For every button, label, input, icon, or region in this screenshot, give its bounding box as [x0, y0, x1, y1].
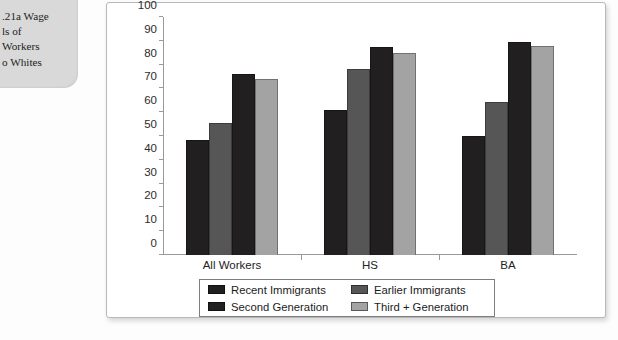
- bar: [485, 102, 508, 256]
- figure-caption-box: .21a Wage ls of Workers o Whites: [0, 0, 78, 88]
- legend-label: Recent Immigrants: [231, 284, 326, 296]
- legend-item[interactable]: Second Generation: [208, 299, 343, 314]
- bar-group: [439, 17, 577, 255]
- chart-legend: Recent ImmigrantsEarlier ImmigrantsSecon…: [199, 279, 495, 317]
- bar: [508, 42, 531, 255]
- y-axis-tick-label: 40: [144, 142, 163, 154]
- y-axis-tick-label: 20: [144, 189, 163, 201]
- legend-item[interactable]: Third + Generation: [351, 299, 486, 314]
- y-axis-tick-label: 100: [138, 0, 163, 11]
- bar: [393, 53, 416, 255]
- x-axis-label: HS: [301, 259, 439, 271]
- legend-label: Earlier Immigrants: [374, 284, 466, 296]
- bar: [186, 140, 209, 255]
- legend-swatch-icon: [208, 302, 225, 311]
- bar-group: [163, 17, 301, 255]
- bar: [370, 47, 393, 255]
- legend-swatch-icon: [351, 302, 368, 311]
- legend-swatch-icon: [208, 285, 225, 294]
- y-axis-tick-label: 10: [144, 213, 163, 225]
- y-axis-tick-label: 50: [144, 118, 163, 130]
- legend-swatch-icon: [351, 285, 368, 294]
- bar: [324, 110, 347, 255]
- chart-panel: 1009080706050403020100 All WorkersHSBA R…: [106, 2, 606, 318]
- y-axis-tick-label: 70: [144, 70, 163, 82]
- bar-group: [301, 17, 439, 255]
- bar: [347, 69, 370, 255]
- figure-caption-text: .21a Wage ls of Workers o Whites: [0, 9, 70, 70]
- x-axis-labels: All WorkersHSBA: [163, 259, 577, 271]
- bar: [255, 79, 278, 255]
- y-axis-tick-label: 0: [151, 237, 163, 249]
- y-axis-tick-label: 90: [144, 23, 163, 35]
- x-axis-label: BA: [439, 259, 577, 271]
- bar-groups: [163, 17, 577, 255]
- legend-item[interactable]: Earlier Immigrants: [351, 282, 486, 297]
- y-axis-tick-label: 60: [144, 94, 163, 106]
- legend-label: Third + Generation: [374, 301, 469, 313]
- y-axis-tick-label: 80: [144, 47, 163, 59]
- bar: [232, 74, 255, 255]
- legend-label: Second Generation: [231, 301, 328, 313]
- x-axis-label: All Workers: [163, 259, 301, 271]
- bar: [209, 123, 232, 255]
- plot-area: 1009080706050403020100: [163, 17, 577, 255]
- figure-page: .21a Wage ls of Workers o Whites 1009080…: [0, 0, 618, 340]
- bar: [531, 46, 554, 255]
- bar: [462, 136, 485, 255]
- legend-item[interactable]: Recent Immigrants: [208, 282, 343, 297]
- y-axis-tick-label: 30: [144, 166, 163, 178]
